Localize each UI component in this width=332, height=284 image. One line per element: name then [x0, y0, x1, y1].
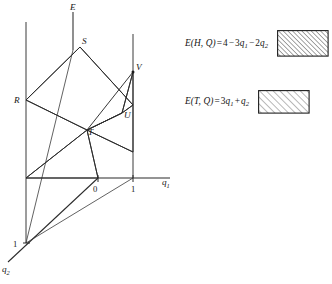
legend-sub2-EHQ: 2 — [265, 42, 268, 49]
edge-V-T — [87, 72, 133, 130]
edge-V-U — [122, 72, 133, 113]
legend-sub2-ETQ: 2 — [246, 100, 249, 107]
tick-label-origin: 0 — [93, 184, 97, 194]
legend-sub1-ETQ: 1 — [230, 100, 233, 107]
q2-axis — [8, 178, 98, 262]
legend-sign1-EHQ: − — [228, 38, 235, 48]
label-R: R — [13, 95, 20, 105]
legend-lhs-EHQ: E(H, Q) — [185, 38, 216, 48]
figure-root: E S R V U T q1 q2 0 1 1 E(H, Q)=4−3q1−2q… — [0, 0, 332, 284]
edge-lowerright-T — [87, 130, 133, 152]
legend-label-ETQ: E(T, Q)=3q1+q2 — [185, 97, 249, 106]
label-q2-axis: q2 — [2, 264, 11, 276]
legend-var1-EHQ: q — [240, 38, 245, 48]
label-E: E — [69, 2, 76, 12]
edge-S-R — [26, 47, 80, 100]
legend-label-EHQ: E(H, Q)=4−3q1−2q2 — [185, 39, 268, 48]
base-square-far-edge — [26, 178, 133, 243]
edge-T-origin — [87, 130, 98, 178]
edge-R-T — [26, 100, 87, 130]
legend-swatch-EHQ — [277, 30, 329, 57]
legend-sign2-ETQ: + — [234, 96, 241, 106]
legend-lhs-ETQ: E(T, Q) — [185, 96, 213, 106]
plane-EHQ-lower-wedge — [26, 130, 98, 178]
legend-sub1-EHQ: 1 — [245, 42, 248, 49]
label-q1-axis: q1 — [162, 177, 170, 189]
tick-label-q2-one: 1 — [13, 239, 17, 249]
plane-EHQ-upper-region — [26, 47, 133, 130]
label-T: T — [88, 127, 94, 137]
label-V: V — [136, 62, 143, 72]
legend-swatch-ETQ — [258, 90, 310, 114]
edge-lowerleft-T — [26, 130, 87, 178]
legend-entry-EHQ: E(H, Q)=4−3q1−2q2 — [185, 30, 329, 57]
legend-equals-EHQ: = — [216, 38, 223, 48]
tick-label-q1-one: 1 — [131, 184, 135, 194]
label-S: S — [82, 36, 87, 46]
vertex-dot-V — [132, 71, 135, 74]
edge-S-rightframe — [80, 47, 133, 105]
legend-equals-ETQ: = — [213, 96, 220, 106]
label-U: U — [124, 110, 132, 120]
legend-entry-ETQ: E(T, Q)=3q1+q2 — [185, 90, 310, 114]
